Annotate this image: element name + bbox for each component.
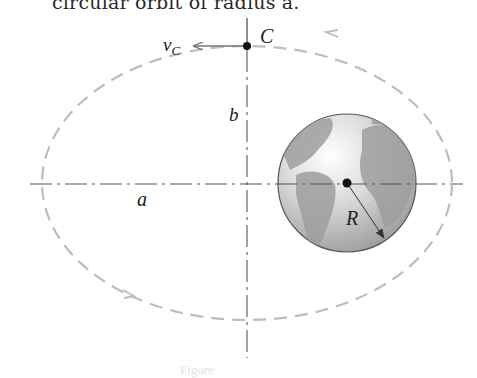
point-c-dot [243,42,251,50]
orbit-direction-arrow-bottom [123,290,134,298]
top-caption-text: circular orbit of radius a. [52,0,300,13]
velocity-subscript: C [171,43,180,58]
point-c-label: C [260,26,273,46]
bottom-caption-text: Figure [180,362,214,378]
orbit-direction-arrow-top [326,30,338,37]
semi-major-axis-label: a [137,189,147,209]
earth-radius-label: R [346,208,358,228]
semi-minor-axis-label: b [229,105,239,124]
velocity-label: vC [163,35,180,57]
earth-center-dot [343,179,352,188]
